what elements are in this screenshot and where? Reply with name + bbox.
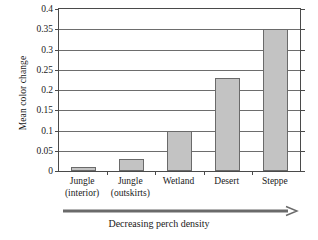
y-axis-tick-label: 0: [7, 166, 59, 176]
y-axis-tick-label: 0.25: [7, 65, 59, 75]
x-axis-category-label: Jungle(interior): [58, 176, 106, 199]
x-axis-tick-mark: [252, 171, 253, 175]
y-axis-tick-label: 0.4: [7, 4, 59, 14]
x-axis-category-label: Desert: [203, 176, 251, 188]
y-axis-tick-mark-right: [300, 171, 305, 172]
category-label-line-1: Jungle: [70, 176, 95, 186]
bar-chart-figure: Mean color change 00.050.10.150.20.250.3…: [0, 0, 318, 240]
category-label-line-1: Desert: [214, 176, 239, 186]
y-axis-tick-mark-right: [300, 9, 305, 10]
x-axis-category-label: Steppe: [251, 176, 299, 188]
x-axis-tick-mark: [107, 171, 108, 175]
category-label-line-1: Steppe: [262, 176, 288, 186]
bar: [167, 131, 192, 172]
y-axis-tick-label: 0.3: [7, 45, 59, 55]
y-axis-tick-mark-right: [300, 110, 305, 111]
category-label-line-2: (outskirts): [106, 188, 154, 200]
bar: [215, 78, 240, 171]
x-axis-tick-mark: [204, 171, 205, 175]
y-axis-tick-label: 0.35: [7, 24, 59, 34]
y-axis-tick-label: 0.05: [7, 146, 59, 156]
x-axis-category-label: Wetland: [154, 176, 202, 188]
x-axis-title: Decreasing perch density: [40, 218, 278, 229]
x-axis-tick-mark: [155, 171, 156, 175]
y-axis-tick-mark-right: [300, 50, 305, 51]
decreasing-perch-density-arrow-icon: [62, 203, 300, 215]
y-axis-tick-label: 0.2: [7, 85, 59, 95]
y-axis-tick-mark-right: [300, 70, 305, 71]
y-axis-tick-mark-right: [300, 29, 305, 30]
y-axis-tick-label: 0.1: [7, 126, 59, 136]
category-label-line-1: Jungle: [118, 176, 143, 186]
category-label-line-2: (interior): [58, 188, 106, 200]
y-axis-tick-mark-right: [300, 151, 305, 152]
bar: [263, 29, 288, 171]
y-axis-tick-label: 0.15: [7, 105, 59, 115]
plot-area: 00.050.10.150.20.250.30.350.4: [58, 8, 301, 172]
bars-layer: [59, 9, 300, 171]
category-label-line-1: Wetland: [163, 176, 194, 186]
y-axis-tick-mark-right: [300, 90, 305, 91]
bar: [119, 159, 144, 171]
bar: [71, 167, 96, 171]
x-axis-category-label: Jungle(outskirts): [106, 176, 154, 199]
y-axis-tick-mark-right: [300, 131, 305, 132]
